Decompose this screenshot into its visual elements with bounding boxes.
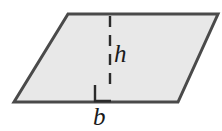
geometry-figure-parallelogram: h b xyxy=(0,0,222,131)
height-label: h xyxy=(114,41,127,66)
base-label: b xyxy=(93,104,106,129)
parallelogram-diagram-canvas xyxy=(0,0,222,131)
